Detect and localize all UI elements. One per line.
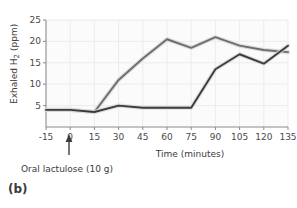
panel-label: (b) [8, 182, 28, 196]
x-axis-ticks: -150153045607590105120135 [39, 127, 297, 142]
y-axis-title: Exhaled H2 (ppm) [9, 24, 21, 104]
svg-text:10: 10 [30, 79, 42, 89]
lactulose-annotation-label: Oral lactulose (10 g) [21, 164, 113, 174]
svg-text:60: 60 [161, 132, 173, 142]
svg-text:45: 45 [137, 132, 148, 142]
svg-text:5: 5 [35, 101, 41, 111]
svg-text:105: 105 [231, 132, 248, 142]
svg-text:15: 15 [30, 58, 41, 68]
x-axis-title: Time (minutes) [155, 149, 224, 159]
svg-text:25: 25 [30, 15, 41, 25]
svg-text:90: 90 [210, 132, 222, 142]
svg-text:20: 20 [30, 36, 42, 46]
svg-text:30: 30 [113, 132, 125, 142]
svg-text:120: 120 [255, 132, 272, 142]
y-axis-ticks: 510152025 [30, 15, 46, 111]
exhaled-hydrogen-line-chart: 510152025 -150153045607590105120135 Exha… [0, 0, 297, 208]
svg-text:135: 135 [279, 132, 296, 142]
svg-text:15: 15 [89, 132, 100, 142]
svg-text:-15: -15 [39, 132, 54, 142]
svg-text:75: 75 [185, 132, 196, 142]
figure-panel-b: 510152025 -150153045607590105120135 Exha… [0, 0, 297, 208]
